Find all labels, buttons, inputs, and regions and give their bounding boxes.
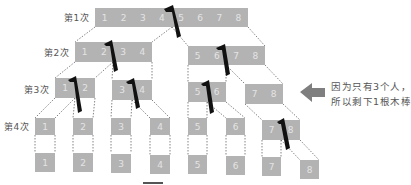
note-line-1: 因为只有3个人， xyxy=(331,79,411,94)
note-line-2: 所以剩下1根木棒 xyxy=(331,94,411,109)
annotation-note: 因为只有3个人， 所以剩下1根木棒 xyxy=(331,79,411,109)
